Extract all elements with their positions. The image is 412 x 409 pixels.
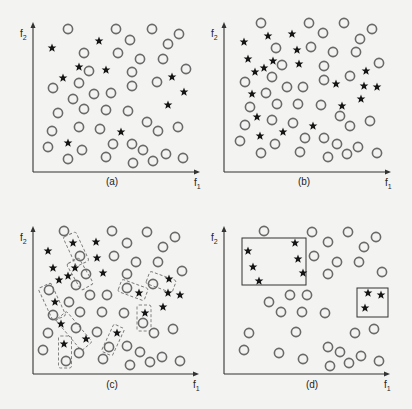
circle-marker [318,28,327,37]
circle-marker [168,324,177,333]
circle-marker [75,307,84,316]
circle-marker [245,102,254,111]
star-marker [264,31,273,39]
circle-marker [98,354,107,363]
panel-caption: (b) [298,176,310,187]
star-marker [288,29,297,37]
circle-marker [239,345,248,354]
circle-marker [377,267,386,276]
circle-marker [63,24,72,33]
circle-marker [174,29,183,38]
star-marker [60,339,69,347]
star-marker [51,297,60,305]
star-marker [309,121,318,129]
circle-marker [323,152,332,161]
panel-a: f2f1(a) [20,22,201,190]
circle-marker [369,324,378,333]
circle-marker [161,149,170,158]
star-marker [244,246,253,254]
circle-marker [158,242,167,251]
circle-marker [122,269,131,278]
circle-marker [175,356,184,365]
circle-marker [359,242,368,251]
circle-marker [44,285,53,294]
circle-marker [244,328,253,337]
circle-marker [356,351,365,360]
circle-marker [125,35,134,44]
circle-marker [309,251,318,260]
star-marker [249,262,258,270]
circle-marker [74,122,83,131]
circle-marker [111,24,120,33]
circle-marker [152,77,161,86]
circle-marker [59,226,68,235]
circle-marker [304,18,313,27]
star-marker [176,290,185,298]
circle-marker [345,121,354,130]
circle-marker [272,99,281,108]
star-marker [338,101,347,109]
circle-marker [95,124,104,133]
star-marker [373,82,382,90]
circle-marker [277,60,286,69]
circle-marker [43,328,52,337]
star-marker [141,308,150,316]
star-marker [64,138,73,146]
star-marker [260,63,269,71]
circle-marker [319,61,328,70]
circle-marker [261,88,270,97]
star-marker [244,54,253,62]
circle-marker [271,43,280,52]
x-axis-label: f1 [385,177,392,190]
circle-marker [113,48,122,57]
circle-marker [53,108,62,117]
circle-marker [355,34,364,43]
circle-marker [147,24,156,33]
star-marker [180,87,189,95]
star-marker [82,334,91,342]
star-marker [92,237,101,245]
star-marker [164,288,173,296]
panel-c: f2f1(c) [20,226,200,392]
circle-marker [354,257,363,266]
panel-b: f2f1(b) [211,18,392,190]
circle-marker [353,142,362,151]
star-marker [57,319,66,327]
circle-marker [320,308,329,317]
circle-marker [142,117,151,126]
star-marker [159,302,168,310]
circle-marker [135,347,144,356]
star-marker [165,274,174,282]
circle-marker [372,148,381,157]
circle-marker [316,100,325,109]
circle-marker [367,24,376,33]
star-marker [49,263,58,271]
circle-marker [119,308,128,317]
circle-marker [101,152,110,161]
circle-marker [264,297,273,306]
star-marker [256,131,265,139]
circle-marker [108,139,117,148]
star-marker [357,94,366,102]
circle-marker [293,99,302,108]
circle-marker [75,251,84,260]
circle-marker [335,111,344,120]
circle-marker [276,307,285,316]
star-marker [255,276,264,284]
circle-marker [74,78,83,87]
star-marker [332,79,341,87]
circle-marker [145,357,154,366]
circle-marker [122,238,131,247]
star-marker [99,268,108,276]
circle-marker [63,154,72,163]
circle-marker [319,75,328,84]
y-axis-label: f2 [20,232,27,245]
circle-marker [306,42,315,51]
circle-marker [138,145,147,154]
y-axis-arrow-icon [31,226,36,232]
panel-caption: (d) [306,379,318,390]
circle-marker [240,77,249,86]
circle-marker [342,149,351,158]
y-axis-arrow-icon [222,226,227,232]
star-marker [293,45,302,53]
